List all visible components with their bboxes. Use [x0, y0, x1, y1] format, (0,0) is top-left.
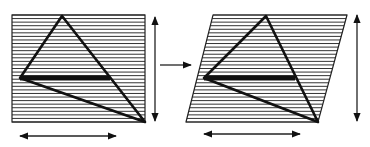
shear-diagram	[0, 0, 370, 147]
right-parallelogram-figure	[186, 15, 347, 122]
left-rectangle-figure	[12, 15, 145, 122]
left-hatch-lines	[12, 15, 145, 122]
